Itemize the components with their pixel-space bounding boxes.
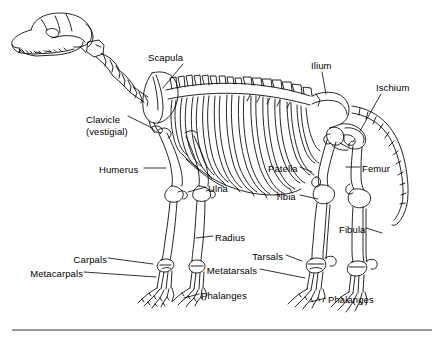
label-carpals: Carpals: [45, 254, 107, 265]
label-tibia: Tibia: [275, 191, 296, 202]
label-ischium: Ischium: [376, 82, 409, 93]
leader-scapula: [163, 64, 183, 88]
leader-tibia: [300, 195, 318, 199]
leader-ulna: [188, 187, 206, 192]
leader-radius: [196, 236, 213, 238]
label-metatarsals: Metatarsals: [190, 265, 257, 276]
forelimb-near: [138, 128, 187, 308]
vertebral-column: [166, 75, 312, 108]
ribcage: [171, 95, 320, 198]
label-scapula: Scapula: [148, 52, 183, 63]
label-fibula: Fibula: [339, 224, 365, 235]
skeleton-diagram: Scapula Clavicle (vestigial) Humerus Uln…: [0, 0, 443, 337]
label-tarsals: Tarsals: [228, 251, 283, 262]
label-clavicle-line1: Clavicle: [86, 114, 120, 125]
label-clavicle-line2: (vestigial): [86, 126, 128, 137]
leader-ischium: [360, 94, 381, 131]
label-ilium: Ilium: [311, 60, 332, 71]
label-phalanges-hind: Phalanges: [328, 294, 374, 305]
hindlimb-near: [288, 134, 336, 309]
label-phalanges-front: Phalanges: [201, 290, 247, 301]
leader-ilium: [322, 72, 326, 94]
leader-phalanges-front: [184, 294, 199, 298]
label-patella: Patella: [268, 163, 298, 174]
leader-fibula: [366, 228, 382, 233]
label-femur: Femur: [362, 163, 390, 174]
leader-tarsals: [286, 255, 302, 261]
label-metacarpals: Metacarpals: [21, 268, 83, 279]
label-humerus: Humerus: [99, 164, 138, 175]
leader-carpals: [108, 258, 153, 264]
skull-bone: [12, 13, 93, 56]
label-ulna: Ulna: [208, 183, 228, 194]
leader-metacarpals: [84, 272, 156, 277]
leader-metatarsals: [260, 269, 305, 278]
cervical-vertebrae: [87, 40, 148, 106]
label-radius: Radius: [215, 232, 245, 243]
pelvis-bone: [312, 92, 366, 150]
label-clavicle: Clavicle (vestigial): [86, 114, 148, 138]
